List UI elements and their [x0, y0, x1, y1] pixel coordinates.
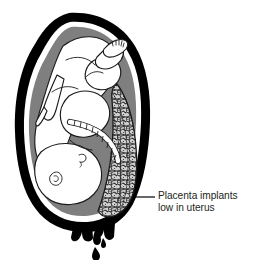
callout-label-line-2: low in uterus [158, 202, 253, 214]
placenta-callout-label: Placenta implants low in uterus [158, 190, 253, 213]
callout-label-line-1: Placenta implants [158, 190, 253, 202]
anatomy-illustration [0, 0, 253, 260]
placenta-previa-figure: Placenta implants low in uterus [0, 0, 253, 260]
